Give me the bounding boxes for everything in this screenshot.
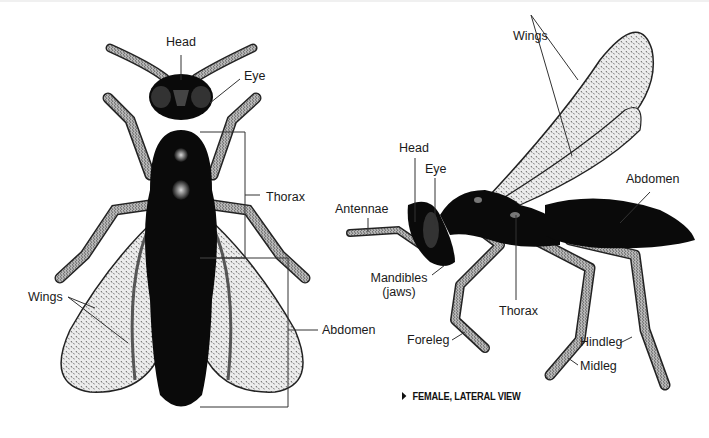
label-dorsal-wings: Wings — [28, 290, 63, 304]
figure-caption: FEMALE, LATERAL VIEW — [402, 390, 521, 402]
label-lateral-hindleg: Hindleg — [580, 335, 622, 349]
dorsal-view-wasp — [60, 48, 305, 407]
label-lateral-antennae: Antennae — [335, 202, 389, 216]
label-lateral-head: Head — [399, 141, 429, 155]
caption-triangle-icon — [402, 392, 406, 400]
label-lateral-wings: Wings — [513, 29, 548, 43]
label-dorsal-thorax: Thorax — [266, 190, 305, 204]
label-lateral-mandibles: Mandibles (jaws) — [366, 271, 432, 299]
label-dorsal-abdomen: Abdomen — [322, 323, 376, 337]
label-mandibles-sub: (jaws) — [366, 285, 432, 299]
label-lateral-eye: Eye — [425, 162, 447, 176]
label-lateral-thorax: Thorax — [499, 304, 538, 318]
label-lateral-foreleg: Foreleg — [407, 333, 449, 347]
label-mandibles-text: Mandibles — [366, 271, 432, 285]
caption-text: FEMALE, LATERAL VIEW — [413, 390, 521, 402]
label-dorsal-eye: Eye — [244, 69, 266, 83]
lateral-view-wasp — [350, 32, 695, 385]
label-lateral-abdomen: Abdomen — [626, 172, 680, 186]
label-dorsal-head: Head — [166, 35, 196, 49]
label-lateral-midleg: Midleg — [580, 359, 617, 373]
